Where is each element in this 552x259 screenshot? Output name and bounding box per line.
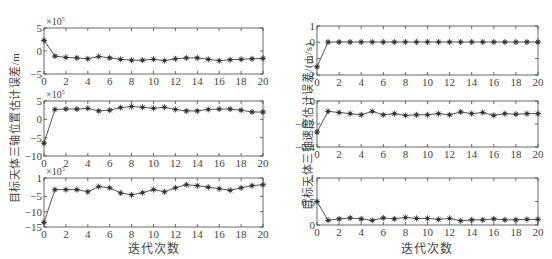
asterisk-marker-icon (347, 111, 353, 117)
left-ylabel: 目标天体三轴位置估计误差/m (6, 48, 22, 208)
y-tick-label: 0 (37, 113, 43, 125)
asterisk-marker-icon (183, 55, 189, 61)
x-tick-label: 8 (129, 75, 135, 87)
asterisk-marker-icon (205, 184, 211, 190)
asterisk-marker-icon (74, 55, 80, 61)
asterisk-marker-icon (425, 112, 431, 118)
asterisk-marker-icon (369, 217, 375, 223)
x-tick-label: 14 (466, 76, 478, 88)
x-tick-label: 14 (192, 228, 204, 240)
x-tick-label: 2 (336, 148, 342, 160)
asterisk-marker-icon (118, 105, 124, 111)
asterisk-marker-icon (480, 39, 486, 45)
series-line (317, 42, 538, 67)
x-tick-label: 16 (488, 76, 500, 88)
figure: 02468101214161820−505×105024681012141618… (0, 0, 552, 259)
asterisk-marker-icon (336, 216, 342, 222)
x-tick-label: 4 (85, 228, 91, 240)
axis-multiplier: ×105 (46, 16, 65, 27)
asterisk-marker-icon (74, 106, 80, 112)
asterisk-marker-icon (41, 37, 47, 43)
asterisk-marker-icon (513, 111, 519, 117)
asterisk-marker-icon (194, 183, 200, 189)
asterisk-marker-icon (535, 111, 541, 117)
x-tick-label: 0 (314, 226, 320, 238)
asterisk-marker-icon (63, 187, 69, 193)
asterisk-marker-icon (347, 39, 353, 45)
asterisk-marker-icon (336, 39, 342, 45)
asterisk-marker-icon (107, 185, 113, 191)
asterisk-marker-icon (129, 192, 135, 198)
asterisk-marker-icon (524, 111, 530, 117)
y-tick-label: 0 (37, 45, 43, 57)
asterisk-marker-icon (118, 190, 124, 196)
asterisk-marker-icon (238, 56, 244, 62)
asterisk-marker-icon (491, 39, 497, 45)
asterisk-marker-icon (216, 186, 222, 192)
asterisk-marker-icon (402, 214, 408, 220)
asterisk-marker-icon (74, 187, 80, 193)
asterisk-marker-icon (205, 106, 211, 112)
axes-box (44, 178, 263, 227)
asterisk-marker-icon (249, 183, 255, 189)
x-tick-label: 18 (236, 75, 248, 87)
x-tick-label: 18 (510, 76, 522, 88)
x-tick-label: 12 (170, 75, 181, 87)
asterisk-marker-icon (96, 54, 102, 60)
x-tick-label: 14 (192, 75, 204, 87)
asterisk-marker-icon (458, 39, 464, 45)
x-tick-label: 10 (422, 226, 434, 238)
x-tick-label: 6 (107, 157, 113, 169)
axes-box (44, 28, 263, 74)
asterisk-marker-icon (227, 106, 233, 112)
x-tick-label: 6 (381, 148, 387, 160)
asterisk-marker-icon (96, 108, 102, 114)
x-tick-label: 4 (358, 226, 364, 238)
asterisk-marker-icon (249, 109, 255, 115)
asterisk-marker-icon (447, 112, 453, 118)
asterisk-marker-icon (52, 53, 58, 59)
asterisk-marker-icon (161, 104, 167, 110)
asterisk-marker-icon (502, 217, 508, 223)
asterisk-marker-icon (129, 104, 135, 110)
x-tick-label: 12 (444, 226, 455, 238)
plot-vel_x: 02468101214161820−2−101 (303, 20, 544, 88)
asterisk-marker-icon (535, 39, 541, 45)
asterisk-marker-icon (325, 108, 331, 114)
asterisk-marker-icon (260, 55, 266, 61)
asterisk-marker-icon (216, 58, 222, 64)
asterisk-marker-icon (238, 107, 244, 113)
x-tick-label: 2 (336, 76, 342, 88)
axes-box (317, 101, 538, 147)
x-tick-label: 0 (314, 76, 320, 88)
y-tick-label: −10 (25, 206, 43, 218)
asterisk-marker-icon (260, 109, 266, 115)
x-tick-label: 2 (63, 228, 69, 240)
x-tick-label: 10 (148, 157, 160, 169)
asterisk-marker-icon (52, 106, 58, 112)
asterisk-marker-icon (458, 109, 464, 115)
y-tick-label: 1 (37, 172, 43, 184)
asterisk-marker-icon (41, 219, 47, 225)
asterisk-marker-icon (480, 110, 486, 116)
right-xlabel: 迭代次数 (401, 239, 453, 257)
asterisk-marker-icon (325, 39, 331, 45)
asterisk-marker-icon (502, 111, 508, 117)
asterisk-marker-icon (358, 39, 364, 45)
x-tick-label: 0 (41, 228, 47, 240)
asterisk-marker-icon (140, 104, 146, 110)
asterisk-marker-icon (535, 216, 541, 222)
asterisk-marker-icon (391, 39, 397, 45)
asterisk-marker-icon (402, 39, 408, 45)
x-tick-label: 16 (488, 226, 500, 238)
asterisk-marker-icon (161, 189, 167, 195)
x-tick-label: 4 (358, 76, 364, 88)
asterisk-marker-icon (380, 112, 386, 118)
x-tick-label: 14 (466, 148, 478, 160)
x-tick-label: 14 (466, 226, 478, 238)
asterisk-marker-icon (63, 54, 69, 60)
asterisk-marker-icon (436, 216, 442, 222)
asterisk-marker-icon (216, 106, 222, 112)
asterisk-marker-icon (513, 39, 519, 45)
x-tick-label: 8 (403, 226, 409, 238)
